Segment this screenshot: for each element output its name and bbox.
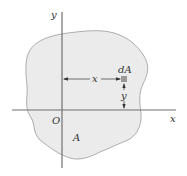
area-moment-diagram: y x O A dA x y <box>0 0 187 176</box>
x-axis-label: x <box>170 113 176 124</box>
y-distance-label: y <box>120 90 127 101</box>
x-distance-label: x <box>92 73 98 84</box>
region-label: A <box>72 132 80 143</box>
region-a-shape <box>26 31 148 159</box>
origin-label: O <box>52 115 60 126</box>
y-axis-label: y <box>50 9 57 20</box>
element-label: dA <box>118 64 132 75</box>
element-da-square <box>121 76 127 82</box>
